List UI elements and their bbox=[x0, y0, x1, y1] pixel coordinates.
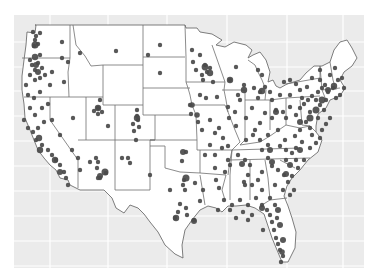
data-point bbox=[284, 158, 288, 162]
data-point bbox=[216, 208, 220, 212]
data-point bbox=[284, 148, 288, 152]
data-point bbox=[221, 136, 225, 140]
data-point-cluster bbox=[287, 162, 293, 168]
data-point-cluster bbox=[267, 147, 273, 153]
data-point bbox=[28, 73, 32, 77]
data-point bbox=[227, 116, 231, 120]
data-point-cluster bbox=[241, 87, 247, 93]
data-point bbox=[276, 242, 280, 246]
data-point bbox=[260, 170, 264, 174]
data-point bbox=[300, 96, 304, 100]
data-point bbox=[238, 198, 242, 202]
data-point bbox=[236, 153, 240, 157]
data-point bbox=[250, 183, 254, 187]
data-point bbox=[208, 143, 212, 147]
data-point bbox=[310, 133, 314, 137]
data-point bbox=[243, 183, 247, 187]
data-point bbox=[298, 128, 302, 132]
data-point bbox=[246, 203, 250, 207]
data-point bbox=[234, 124, 238, 128]
data-point bbox=[208, 118, 212, 122]
data-point bbox=[213, 166, 217, 170]
data-point bbox=[251, 133, 255, 137]
data-point bbox=[310, 94, 314, 98]
data-point bbox=[131, 122, 135, 126]
data-point bbox=[278, 93, 282, 97]
data-point-cluster bbox=[189, 102, 195, 108]
data-point bbox=[185, 213, 189, 217]
data-point bbox=[208, 66, 212, 70]
data-point bbox=[222, 198, 226, 202]
data-point bbox=[276, 128, 280, 132]
data-point-cluster bbox=[52, 157, 58, 163]
data-point bbox=[233, 110, 237, 114]
data-point bbox=[256, 178, 260, 182]
data-point-cluster bbox=[134, 115, 140, 121]
data-point bbox=[266, 156, 270, 160]
data-point bbox=[50, 153, 54, 157]
data-point bbox=[252, 86, 256, 90]
data-point bbox=[204, 96, 208, 100]
data-point bbox=[288, 93, 292, 97]
data-point bbox=[96, 112, 100, 116]
data-point bbox=[226, 158, 230, 162]
data-point bbox=[42, 120, 46, 124]
data-point bbox=[31, 130, 35, 134]
data-point bbox=[273, 203, 277, 207]
data-point bbox=[263, 111, 267, 115]
data-point bbox=[253, 128, 257, 132]
data-point-cluster bbox=[277, 222, 283, 228]
data-point bbox=[270, 220, 274, 224]
data-point bbox=[234, 216, 238, 220]
data-point bbox=[318, 103, 322, 107]
data-point bbox=[318, 78, 322, 82]
data-point bbox=[78, 168, 82, 172]
data-point bbox=[135, 108, 139, 112]
data-point bbox=[180, 159, 184, 163]
data-point-cluster bbox=[180, 149, 186, 155]
data-point bbox=[217, 186, 221, 190]
data-point bbox=[244, 138, 248, 142]
data-point bbox=[70, 148, 74, 152]
data-point bbox=[270, 116, 274, 120]
data-point bbox=[302, 102, 306, 106]
data-point bbox=[217, 126, 221, 130]
data-point bbox=[220, 146, 224, 150]
data-point bbox=[260, 73, 264, 77]
data-point bbox=[31, 30, 35, 34]
data-point bbox=[320, 128, 324, 132]
data-point bbox=[310, 76, 314, 80]
data-point bbox=[132, 129, 136, 133]
data-point bbox=[258, 121, 262, 125]
data-point bbox=[256, 96, 260, 100]
data-point bbox=[158, 71, 162, 75]
data-point bbox=[214, 178, 218, 182]
data-point bbox=[96, 160, 100, 164]
data-point bbox=[266, 133, 270, 137]
data-point bbox=[242, 83, 246, 87]
data-point bbox=[256, 68, 260, 72]
data-point bbox=[88, 160, 92, 164]
data-point bbox=[58, 133, 62, 137]
data-point-cluster bbox=[183, 175, 190, 182]
data-point bbox=[66, 183, 70, 187]
data-point bbox=[46, 148, 50, 152]
data-point-cluster bbox=[319, 97, 326, 104]
data-point-cluster bbox=[202, 64, 209, 71]
data-point bbox=[276, 168, 280, 172]
data-point bbox=[46, 102, 50, 106]
data-point-cluster bbox=[57, 169, 63, 175]
data-point bbox=[95, 166, 99, 170]
data-point bbox=[305, 85, 309, 89]
data-point bbox=[322, 108, 326, 112]
data-point-cluster bbox=[283, 171, 289, 177]
data-point-cluster bbox=[95, 105, 101, 111]
data-point bbox=[294, 82, 298, 86]
data-point bbox=[342, 86, 346, 90]
data-point bbox=[228, 208, 232, 212]
data-point bbox=[183, 188, 187, 192]
data-point bbox=[76, 156, 80, 160]
data-point bbox=[38, 31, 42, 35]
data-point-cluster bbox=[227, 77, 233, 83]
data-point bbox=[168, 188, 172, 192]
